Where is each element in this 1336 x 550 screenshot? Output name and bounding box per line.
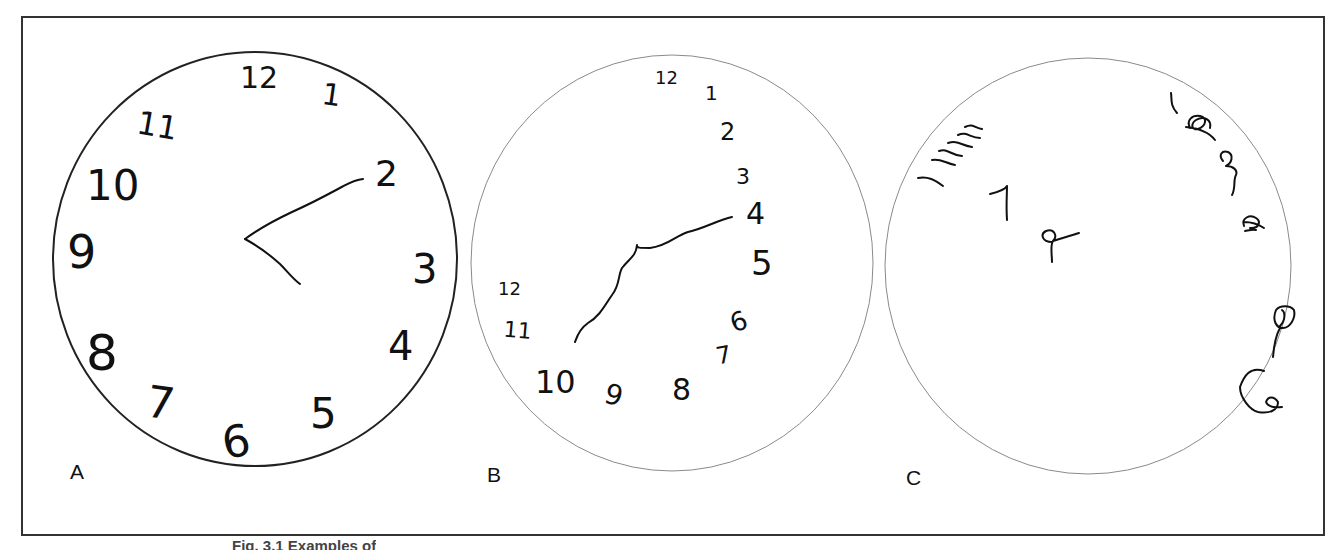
- clock-c-scribble-two: [1221, 152, 1237, 195]
- clock-b-numeral-6: 6: [726, 305, 752, 339]
- clock-c-center-mark: [1043, 230, 1079, 262]
- clock-a-numeral-6: 6: [218, 414, 254, 469]
- clock-b: 12 1 2 3 4 5 6 7 8 9 10 11 12: [471, 55, 873, 471]
- clock-c-scribble-box: [1273, 306, 1294, 357]
- clock-c-scribble-cluster: [1186, 116, 1215, 140]
- clock-drawings: 12 1 2 3 4 5 6 7 8 9 10 11 12 1 2 3 4 5 …: [0, 0, 1336, 550]
- clock-b-numeral-11: 11: [503, 317, 533, 344]
- clock-b-numeral-12: 12: [655, 67, 678, 88]
- clock-a-numeral-2: 2: [375, 153, 398, 194]
- clock-c-stroke-seven: [990, 186, 1007, 220]
- clock-a-numeral-12: 12: [240, 60, 278, 95]
- clock-a-numeral-4: 4: [388, 323, 413, 369]
- panel-label-c: C: [906, 466, 921, 490]
- clock-b-numeral-7: 7: [714, 340, 734, 370]
- clock-b-numeral-10: 10: [535, 363, 576, 401]
- clock-b-numeral-3: 3: [736, 164, 750, 189]
- clock-a-numeral-8: 8: [86, 324, 118, 382]
- clock-a-numeral-1: 1: [320, 76, 344, 113]
- panel-label-a: A: [70, 460, 84, 484]
- clock-c-face: [885, 58, 1291, 474]
- clock-a-numeral-3: 3: [412, 246, 437, 292]
- clock-b-numeral-9: 9: [601, 377, 627, 413]
- clock-b-numeral-2: 2: [720, 118, 735, 146]
- clock-c-scribble-ones: [918, 125, 982, 186]
- clock-b-face: [471, 55, 873, 471]
- clock-b-numeral-5: 5: [751, 243, 773, 283]
- clock-c-scribble-three: [1243, 216, 1264, 231]
- clock-b-hand: [575, 217, 732, 342]
- clock-c: [885, 58, 1294, 474]
- clock-b-numeral-8: 8: [672, 372, 691, 407]
- figure-caption: Fig. 3.1 Examples of: [232, 537, 376, 550]
- clock-a-minute-hand: [245, 179, 363, 239]
- clock-a-numeral-10: 10: [86, 161, 139, 210]
- panel-label-b: B: [487, 463, 501, 487]
- clock-a-numeral-11: 11: [134, 103, 181, 147]
- clock-c-scribble-six: [1240, 370, 1282, 413]
- clock-b-numeral-4: 4: [746, 196, 765, 231]
- clock-b-numeral-1: 1: [705, 81, 718, 105]
- clock-a: 12 1 2 3 4 5 6 7 8 9 10 11: [53, 52, 457, 469]
- clock-a-numeral-7: 7: [143, 375, 178, 429]
- clock-a-numeral-5: 5: [310, 389, 337, 438]
- clock-a-numeral-9: 9: [67, 225, 96, 279]
- clock-a-hour-hand: [245, 239, 300, 284]
- clock-b-numeral-12-repeat: 12: [498, 278, 521, 299]
- clock-c-numeral-one: [1171, 93, 1177, 113]
- clock-a-face: [53, 52, 457, 466]
